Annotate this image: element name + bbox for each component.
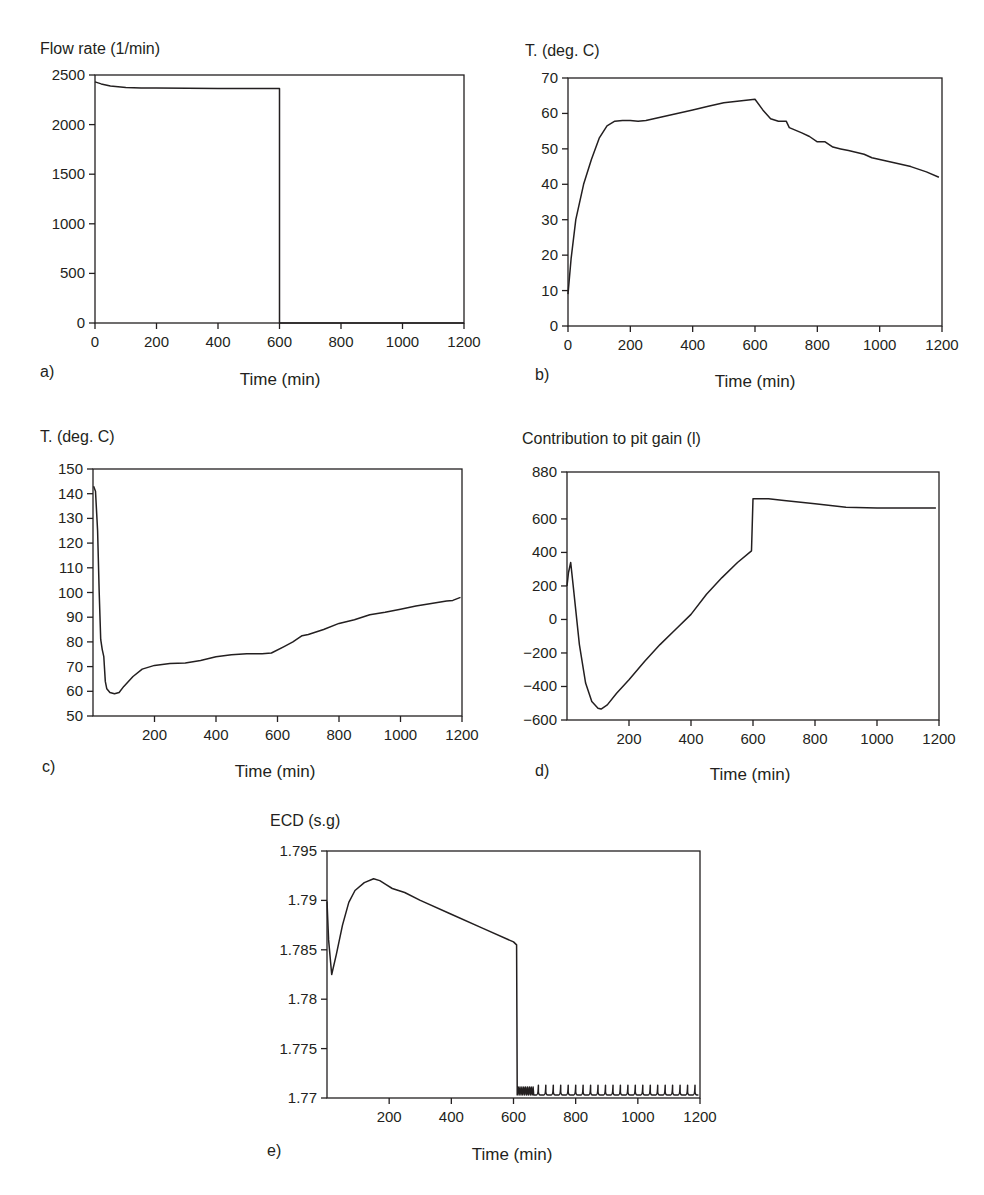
y-tick-label: 30 [541, 211, 558, 228]
y-tick-label: 0 [550, 317, 558, 334]
y-tick-label: 60 [66, 682, 83, 699]
plot-frame [568, 78, 942, 326]
x-tick-label: 1000 [863, 336, 896, 353]
y-tick-label: 150 [58, 460, 83, 477]
plot-frame [93, 469, 462, 716]
x-tick-label: 1200 [925, 336, 958, 353]
y-tick-label: 0 [77, 314, 85, 331]
y-tick-label: −200 [523, 644, 557, 661]
chart-d-plot: −600−400−2000200400600880200400600800100… [523, 463, 955, 747]
x-tick-label: 600 [501, 1108, 526, 1125]
x-tick-label: 200 [142, 726, 167, 743]
y-tick-label: 110 [59, 559, 83, 576]
y-tick-label: 1000 [52, 215, 85, 232]
x-tick-label: 1200 [683, 1108, 716, 1125]
y-tick-label: 10 [541, 282, 558, 299]
x-tick-label: 1000 [621, 1108, 654, 1125]
chart-e-plot: 1.771.7751.781.7851.791.7952004006008001… [279, 842, 716, 1125]
x-tick-label: 600 [742, 336, 767, 353]
x-tick-label: 800 [802, 730, 827, 747]
series-line [95, 82, 464, 323]
y-tick-label: 1.78 [288, 990, 317, 1007]
y-tick-label: 130 [58, 509, 83, 526]
y-tick-label: 60 [541, 104, 558, 121]
x-tick-label: 200 [377, 1108, 402, 1125]
y-tick-label: 400 [532, 543, 557, 560]
y-tick-label: 1500 [52, 165, 85, 182]
y-tick-label: 90 [66, 608, 83, 625]
x-tick-label: 0 [91, 333, 99, 350]
x-tick-label: 200 [616, 730, 641, 747]
chart-b-plot: 010203040506070020040060080010001200 [541, 69, 958, 353]
x-tick-label: 1000 [384, 726, 417, 743]
y-tick-label: 880 [532, 463, 557, 480]
y-tick-label: 0 [549, 610, 557, 627]
y-tick-label: −600 [523, 711, 557, 728]
x-tick-label: 200 [144, 333, 169, 350]
x-tick-label: 800 [328, 333, 353, 350]
y-tick-label: 2000 [52, 116, 85, 133]
x-tick-label: 1000 [860, 730, 893, 747]
x-tick-label: 1200 [922, 730, 955, 747]
y-tick-label: 50 [541, 140, 558, 157]
y-tick-label: 1.775 [279, 1040, 317, 1057]
charts-canvas: 0500100015002000250002004006008001000120… [0, 0, 984, 1195]
x-tick-label: 1000 [386, 333, 419, 350]
x-tick-label: 800 [563, 1108, 588, 1125]
chart-c-plot: 5060708090100110120130140150200400600800… [58, 460, 479, 743]
y-tick-label: 40 [541, 175, 558, 192]
chart-a-plot: 0500100015002000250002004006008001000120… [52, 66, 481, 350]
y-tick-label: 500 [60, 264, 85, 281]
x-tick-label: 200 [618, 336, 643, 353]
y-tick-label: 120 [58, 534, 83, 551]
series-line [327, 879, 698, 1095]
x-tick-label: 400 [439, 1108, 464, 1125]
y-tick-label: 50 [66, 707, 83, 724]
x-tick-label: 1200 [445, 726, 478, 743]
x-tick-label: 600 [265, 726, 290, 743]
series-line [94, 486, 461, 694]
y-tick-label: 600 [532, 510, 557, 527]
y-tick-label: −400 [523, 677, 557, 694]
x-tick-label: 800 [805, 336, 830, 353]
y-tick-label: 70 [66, 658, 83, 675]
y-tick-label: 1.79 [288, 891, 317, 908]
y-tick-label: 140 [58, 485, 83, 502]
x-tick-label: 400 [203, 726, 228, 743]
y-tick-label: 1.785 [279, 941, 317, 958]
y-tick-label: 1.77 [288, 1089, 317, 1106]
y-tick-label: 100 [58, 584, 83, 601]
y-tick-label: 2500 [52, 66, 85, 83]
x-tick-label: 1200 [447, 333, 480, 350]
y-tick-label: 80 [66, 633, 83, 650]
y-tick-label: 200 [532, 577, 557, 594]
x-tick-label: 600 [267, 333, 292, 350]
plot-frame [327, 851, 700, 1098]
x-tick-label: 400 [205, 333, 230, 350]
x-tick-label: 400 [678, 730, 703, 747]
series-line [568, 99, 939, 294]
y-tick-label: 1.795 [279, 842, 317, 859]
y-tick-label: 70 [541, 69, 558, 86]
series-line [567, 499, 936, 709]
y-tick-label: 20 [541, 246, 558, 263]
x-tick-label: 600 [740, 730, 765, 747]
x-tick-label: 0 [564, 336, 572, 353]
x-tick-label: 400 [680, 336, 705, 353]
x-tick-label: 800 [326, 726, 351, 743]
